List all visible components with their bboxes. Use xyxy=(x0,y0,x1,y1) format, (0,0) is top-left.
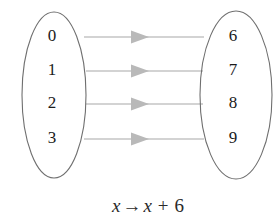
arrowhead-icon xyxy=(131,65,149,78)
caption-arrow-icon: → xyxy=(122,195,141,216)
mapping-arrows-group xyxy=(84,31,204,146)
function-rule-caption: x→x+6 xyxy=(111,195,184,216)
mapping-arrow-2-to-8 xyxy=(86,98,203,111)
domain-element-2: 2 xyxy=(48,93,57,112)
mapping-arrow-0-to-6 xyxy=(84,31,204,44)
arrowhead-icon xyxy=(131,98,149,111)
caption-constant: 6 xyxy=(175,195,185,216)
mapping-diagram-figure: 0 1 2 3 6 7 8 9 x→x+6 xyxy=(0,0,280,223)
caption-variable-left: x xyxy=(111,195,121,216)
codomain-element-7: 7 xyxy=(229,60,238,79)
arrowhead-icon xyxy=(131,31,149,44)
diagram-canvas: 0 1 2 3 6 7 8 9 x→x+6 xyxy=(0,0,280,223)
domain-element-1: 1 xyxy=(48,60,57,79)
mapping-arrow-3-to-9 xyxy=(84,133,204,146)
domain-element-3: 3 xyxy=(48,128,57,147)
codomain-element-8: 8 xyxy=(229,93,238,112)
arrowhead-icon xyxy=(131,133,149,146)
codomain-element-9: 9 xyxy=(229,128,238,147)
codomain-element-6: 6 xyxy=(229,26,238,45)
mapping-arrow-1-to-7 xyxy=(86,65,203,78)
domain-set-group: 0 1 2 3 xyxy=(22,12,86,178)
caption-variable-right: x xyxy=(142,195,152,216)
domain-element-0: 0 xyxy=(48,26,57,45)
codomain-set-group: 6 7 8 9 xyxy=(200,11,272,179)
caption-operator: + xyxy=(158,195,169,216)
